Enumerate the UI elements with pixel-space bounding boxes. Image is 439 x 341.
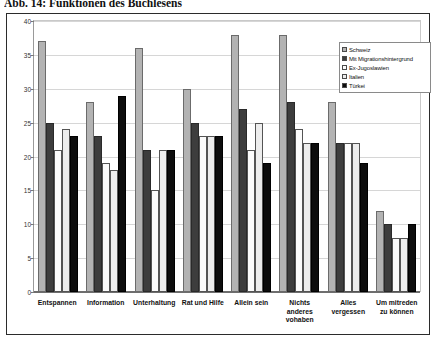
bar-group	[131, 21, 179, 292]
bar	[207, 136, 215, 292]
bar	[400, 238, 408, 292]
bar	[360, 163, 368, 292]
bar	[118, 96, 126, 292]
bar	[46, 123, 54, 292]
legend-swatch-icon	[342, 74, 347, 79]
x-axis-label: Unterhaltung	[130, 297, 179, 333]
bar	[239, 109, 247, 292]
bar	[336, 143, 344, 292]
bar	[392, 238, 400, 292]
x-axis-label: Entspannen	[33, 297, 82, 333]
bar	[311, 143, 319, 292]
bar-group	[227, 21, 275, 292]
bar	[295, 129, 303, 292]
bar-group	[82, 21, 130, 292]
legend-swatch-icon	[342, 47, 347, 52]
legend-item: Ex-Jugoslawien	[342, 63, 427, 72]
bar	[159, 150, 167, 292]
y-tick-label: 15	[24, 187, 31, 194]
chart-frame: 0510152025303540 EntspannenInformationUn…	[6, 13, 430, 335]
x-axis-label: Rat und Hilfe	[179, 297, 228, 333]
legend-item: Mit Migrationshintergrund	[342, 54, 427, 63]
bar	[191, 123, 199, 292]
x-axis-labels: EntspannenInformationUnterhaltungRat und…	[33, 297, 421, 333]
legend-swatch-icon	[342, 83, 347, 88]
bar	[263, 163, 271, 292]
bar-group	[275, 21, 323, 292]
legend-item-label: Türkei	[349, 83, 365, 89]
legend-swatch-icon	[342, 65, 347, 70]
y-tick-label: 5	[27, 255, 31, 262]
bar	[215, 136, 223, 292]
bar-group	[179, 21, 227, 292]
x-axis-label: Alles vergessen	[324, 297, 373, 333]
bar	[376, 211, 384, 292]
bar	[143, 150, 151, 292]
bar	[247, 150, 255, 292]
gridline	[34, 292, 420, 293]
y-tick-label: 35	[24, 51, 31, 58]
legend-item: Italien	[342, 72, 427, 81]
bar	[328, 102, 336, 292]
y-tick-label: 40	[24, 18, 31, 25]
bar	[255, 123, 263, 292]
legend-rows: SchweizMit MigrationshintergrundEx-Jugos…	[342, 45, 427, 90]
chart-legend: SchweizMit MigrationshintergrundEx-Jugos…	[339, 42, 431, 93]
bar	[86, 102, 94, 292]
x-axis-label: Um mitreden zu können	[373, 297, 422, 333]
legend-item: Schweiz	[342, 45, 427, 54]
y-tick-label: 0	[27, 289, 31, 296]
bar	[70, 136, 78, 292]
bar	[94, 136, 102, 292]
bar	[54, 150, 62, 292]
y-tick-label: 25	[24, 119, 31, 126]
legend-item-label: Schweiz	[349, 47, 370, 53]
figure-root: Abb. 14: Funktionen des Buchlesens 05101…	[0, 0, 439, 341]
y-tick-label: 20	[24, 153, 31, 160]
x-axis-label: Allein sein	[227, 297, 276, 333]
bar	[135, 48, 143, 292]
legend-swatch-icon	[342, 56, 347, 61]
legend-item-label: Ex-Jugoslawien	[349, 65, 389, 71]
x-axis-label: Nichts anderes vohaben	[276, 297, 325, 333]
bar	[110, 170, 118, 292]
bar	[38, 41, 46, 292]
bar	[183, 89, 191, 292]
figure-title: Abb. 14: Funktionen des Buchlesens	[4, 0, 434, 11]
bar	[167, 150, 175, 292]
bar	[62, 129, 70, 292]
bar	[287, 102, 295, 292]
bar	[199, 136, 207, 292]
bar	[231, 35, 239, 292]
bar	[151, 190, 159, 292]
y-tick-label: 10	[24, 221, 31, 228]
bar-group	[34, 21, 82, 292]
bar	[303, 143, 311, 292]
plot-outer: 0510152025303540 EntspannenInformationUn…	[7, 14, 429, 334]
bar	[279, 35, 287, 292]
legend-item-label: Mit Migrationshintergrund	[349, 56, 413, 62]
bar	[384, 224, 392, 292]
bar	[102, 163, 110, 292]
bar	[352, 143, 360, 292]
bar	[408, 224, 416, 292]
y-tick-mark	[31, 292, 34, 293]
legend-item: Türkei	[342, 81, 427, 90]
y-tick-label: 30	[24, 85, 31, 92]
legend-item-label: Italien	[349, 74, 364, 80]
x-axis-label: Information	[82, 297, 131, 333]
bar	[344, 143, 352, 292]
